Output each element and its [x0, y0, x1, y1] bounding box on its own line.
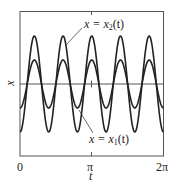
annotation-x2-text: x = x: [84, 17, 109, 31]
annotation-x2: x = x2(t): [84, 18, 124, 32]
annotation-x1-tail: (t): [118, 132, 129, 146]
annotation-x1: x = x1(t): [89, 133, 129, 147]
y-axis-label: x: [4, 80, 16, 85]
x-tick-label-2pi: 2π: [156, 161, 168, 173]
x-axis-label: t: [89, 170, 92, 182]
annotation-x1-text: x = x: [89, 132, 114, 146]
annotation-x2-tail: (t): [113, 17, 124, 31]
x-tick-label-0: 0: [17, 161, 23, 173]
leader-line-x2: [66, 28, 82, 45]
